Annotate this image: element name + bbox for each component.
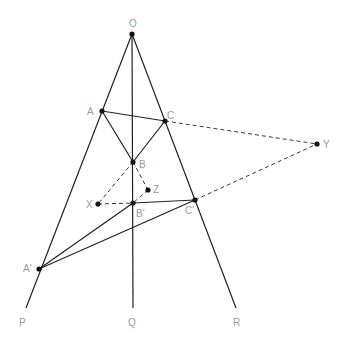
point-x xyxy=(95,201,100,206)
label-r: R xyxy=(233,317,240,328)
point-z xyxy=(145,187,150,192)
label-o: O xyxy=(129,18,137,29)
segment-c-y-dashed xyxy=(165,121,317,144)
segment-c-b xyxy=(133,121,165,162)
label-p: P xyxy=(19,317,26,328)
point-o xyxy=(129,31,134,36)
segment-o-r xyxy=(132,34,236,308)
segment-bprime-cprime xyxy=(133,200,195,203)
label-y: Y xyxy=(323,139,330,150)
label-q: Q xyxy=(128,317,136,328)
points xyxy=(36,31,319,271)
label-a: A xyxy=(87,106,94,117)
point-y xyxy=(314,141,319,146)
segment-a-b xyxy=(102,111,133,162)
segment-aprime-bprime xyxy=(39,203,133,269)
label-c: C xyxy=(167,110,174,121)
point-bprime xyxy=(130,200,135,205)
point-cprime xyxy=(192,197,197,202)
label-cprime: C' xyxy=(185,205,194,216)
label-aprime: A' xyxy=(23,263,32,274)
point-a xyxy=(99,108,104,113)
point-aprime xyxy=(36,266,41,271)
segment-o-q xyxy=(132,34,133,308)
segment-b-x-dashed xyxy=(98,162,133,204)
label-z: Z xyxy=(153,184,159,195)
desargues-diagram: OACBZXB'C'YA'PQR xyxy=(0,0,346,344)
label-bprime: B' xyxy=(136,208,145,219)
point-labels: OACBZXB'C'YA'PQR xyxy=(19,18,330,328)
segment-x-bprime-dashed xyxy=(98,203,133,204)
solid-lines xyxy=(26,34,236,308)
point-b xyxy=(130,159,135,164)
segment-a-c xyxy=(102,111,165,121)
label-x: X xyxy=(86,199,93,210)
label-b: B xyxy=(139,159,146,170)
segment-cprime-y-dashed xyxy=(195,144,317,200)
segment-aprime-cprime xyxy=(39,200,195,269)
segment-z-bprime-dashed xyxy=(133,190,148,203)
